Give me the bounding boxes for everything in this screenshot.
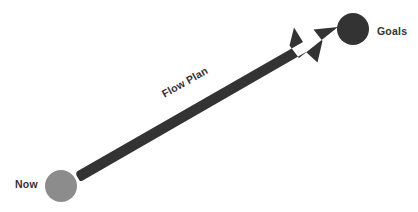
node-now-circle[interactable] — [45, 170, 77, 202]
diagram-canvas: Now Goals Flow Plan — [0, 0, 418, 212]
flow-diagram — [0, 0, 418, 212]
node-now-label: Now — [15, 179, 38, 190]
node-goals-label: Goals — [377, 26, 407, 37]
flow-arrow-group[interactable] — [76, 27, 338, 181]
node-goals-circle[interactable] — [337, 13, 369, 45]
flow-arrow-shape[interactable] — [76, 27, 338, 181]
